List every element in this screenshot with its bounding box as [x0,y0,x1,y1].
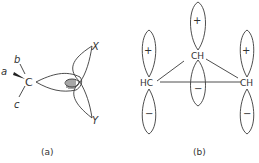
top-upper-lobe [191,2,206,50]
top-upper-sign: + [193,15,201,26]
overlap-hatching [67,79,75,89]
label-x: X [91,41,100,52]
bond-top-right [206,59,238,78]
label-y: Y [92,115,99,126]
bond-left-top [157,61,184,81]
orbital-lobe-x [73,46,92,82]
label-a: a [1,66,7,77]
orbital-diagram: b a c C X Y (a) + − HC [0,0,259,163]
caption-b: (b) [193,147,206,157]
top-group-label: CH [191,51,204,61]
label-c: c [14,99,20,110]
caption-a: (a) [41,147,54,157]
label-b: b [14,54,20,65]
panel-b: + − HC + − CH + − CH (b) [140,2,254,157]
orbital-lobe-y [74,82,92,118]
top-lower-sign: − [194,83,202,94]
bond-a-wedge [13,72,25,79]
bond-b [20,64,25,74]
left-lower-sign: − [145,108,153,119]
left-group-label: HC [140,78,153,88]
carbon-label: C [25,76,33,89]
panel-a: b a c C X Y (a) [1,41,100,157]
right-lower-sign: − [243,108,251,119]
right-group-label: CH [240,78,253,88]
left-upper-sign: + [144,45,152,56]
right-upper-sign: + [242,45,250,56]
